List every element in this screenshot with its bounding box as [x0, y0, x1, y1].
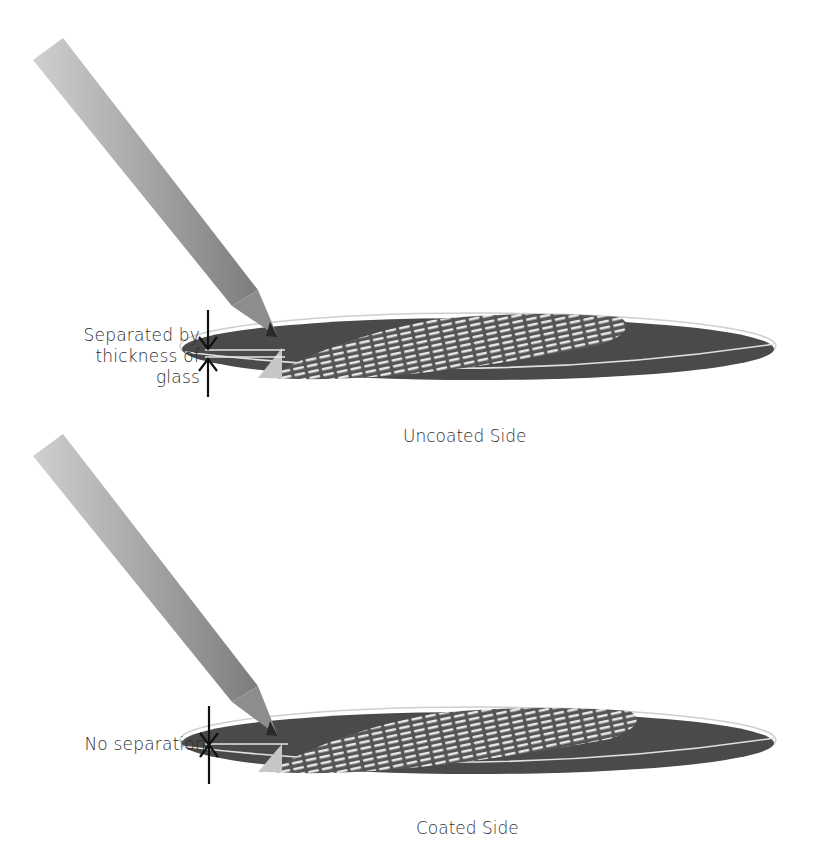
caption-coated: Coated Side [416, 818, 519, 838]
annotation-separated: Separated by thickness of glass [40, 325, 200, 388]
annotation-line: No separation [40, 734, 206, 755]
pencil [33, 38, 278, 337]
annotation-line: glass [40, 367, 200, 388]
panel-uncoated: Separated by thickness of glass Uncoated… [0, 0, 823, 432]
up-arrow-icon [199, 359, 217, 397]
coated-scene [0, 400, 823, 864]
panel-coated: No separation Coated Side [0, 400, 823, 864]
annotation-line: thickness of [40, 346, 200, 367]
annotation-line: Separated by [40, 325, 200, 346]
pencil [33, 434, 278, 736]
annotation-no-separation: No separation [40, 734, 206, 755]
